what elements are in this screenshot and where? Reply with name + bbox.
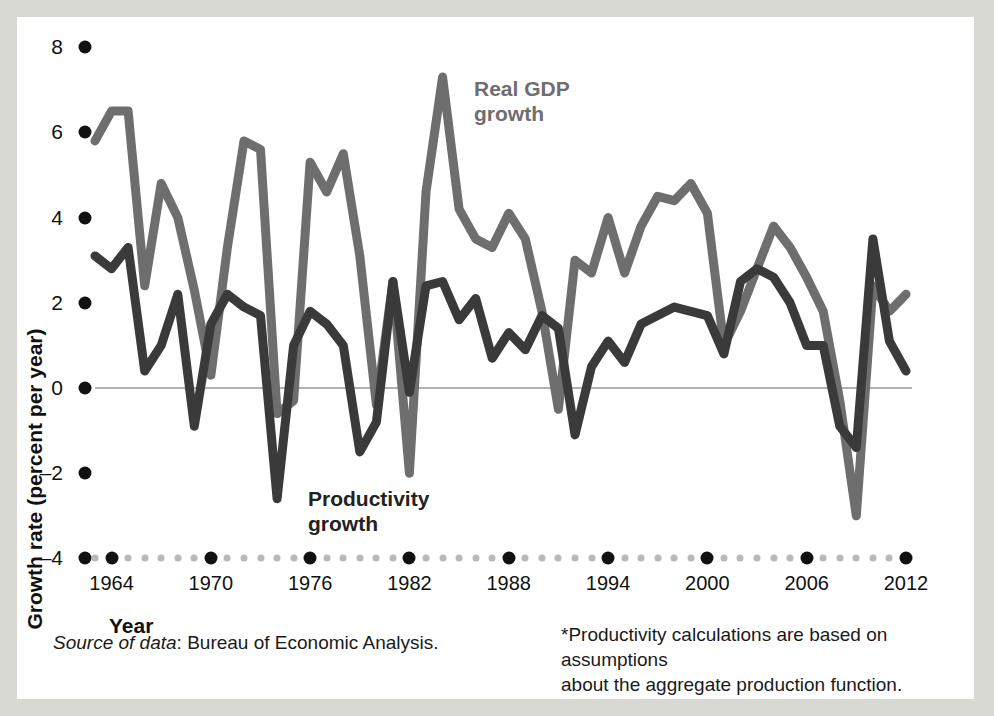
x-tick-dot-minor-icon (373, 555, 380, 562)
y-tick-label: –2 (40, 461, 63, 485)
x-tick-dot-minor-icon (191, 555, 198, 562)
x-tick-dot-minor-icon (836, 555, 843, 562)
annotation-productivity-growth-line1: Productivity (308, 487, 429, 512)
x-tick-dot-minor-icon (820, 555, 827, 562)
x-tick-dot-minor-icon (571, 555, 578, 562)
y-tick-label: –4 (40, 546, 63, 570)
x-tick-dot-minor-icon (274, 555, 281, 562)
x-tick-dot-major-icon (105, 552, 118, 565)
x-tick-dot-minor-icon (323, 555, 330, 562)
x-tick-dot-minor-icon (588, 555, 595, 562)
x-tick-dot-major-icon (204, 552, 217, 565)
y-tick-dot-icon (79, 552, 92, 565)
annotation-real-gdp-growth-line1: Real GDP (474, 77, 570, 102)
footnote-line2: about the aggregate production function. (561, 672, 974, 697)
x-tick-dot-minor-icon (687, 555, 694, 562)
x-tick-dot-minor-icon (869, 555, 876, 562)
x-tick-label: 2006 (784, 572, 829, 595)
x-tick-dot-minor-icon (754, 555, 761, 562)
annotation-real-gdp-growth-line2: growth (474, 102, 570, 127)
x-tick-dot-minor-icon (290, 555, 297, 562)
x-tick-dot-minor-icon (737, 555, 744, 562)
y-tick-dot-icon (79, 382, 92, 395)
x-tick-dot-minor-icon (853, 555, 860, 562)
x-tick-label: 1970 (189, 572, 234, 595)
y-tick-dot-icon (79, 126, 92, 139)
x-tick-dot-minor-icon (423, 555, 430, 562)
x-tick-dot-minor-icon (92, 555, 99, 562)
x-tick-dot-major-icon (899, 552, 912, 565)
y-tick-dot-icon (79, 41, 92, 54)
y-tick-dot-icon (79, 296, 92, 309)
x-tick-dot-minor-icon (638, 555, 645, 562)
x-tick-label: 1982 (387, 572, 432, 595)
y-tick-label: 2 (51, 291, 63, 315)
y-tick-dot-icon (79, 211, 92, 224)
annotation-productivity-growth-line2: growth (308, 512, 429, 537)
footnote: *Productivity calculations are based on … (561, 622, 974, 697)
x-tick-dot-minor-icon (538, 555, 545, 562)
x-tick-dot-minor-icon (456, 555, 463, 562)
annotation-productivity-growth: Productivity growth (308, 487, 429, 537)
x-tick-label: 1994 (586, 572, 631, 595)
y-tick-label: 6 (51, 120, 63, 144)
x-tick-dot-minor-icon (787, 555, 794, 562)
x-tick-dot-major-icon (701, 552, 714, 565)
source-note-rest: : Bureau of Economic Analysis. (177, 632, 439, 653)
x-tick-dot-minor-icon (158, 555, 165, 562)
series-line-productivity-growth (95, 239, 906, 499)
x-tick-dot-minor-icon (522, 555, 529, 562)
x-tick-dot-minor-icon (340, 555, 347, 562)
x-tick-dot-minor-icon (356, 555, 363, 562)
footnote-line1: *Productivity calculations are based on … (561, 622, 974, 672)
annotation-real-gdp-growth: Real GDP growth (474, 77, 570, 127)
x-tick-dot-major-icon (403, 552, 416, 565)
x-tick-dot-minor-icon (439, 555, 446, 562)
x-tick-dot-major-icon (602, 552, 615, 565)
x-tick-label: 2012 (884, 572, 929, 595)
x-tick-dot-minor-icon (555, 555, 562, 562)
y-tick-dot-icon (79, 467, 92, 480)
x-tick-label: 2000 (685, 572, 730, 595)
x-tick-dot-minor-icon (174, 555, 181, 562)
source-note-italic: Source of data (53, 632, 177, 653)
x-tick-label: 1964 (89, 572, 134, 595)
x-tick-dot-major-icon (800, 552, 813, 565)
source-note: Source of data: Bureau of Economic Analy… (53, 630, 439, 655)
y-tick-label: 0 (51, 376, 63, 400)
chart-figure: Growth rate (percent per year) 86420–2–4… (17, 17, 974, 699)
x-tick-dot-minor-icon (671, 555, 678, 562)
x-tick-label: 1988 (487, 572, 532, 595)
x-tick-dot-minor-icon (886, 555, 893, 562)
x-tick-dot-minor-icon (141, 555, 148, 562)
x-tick-label: 1976 (288, 572, 333, 595)
x-tick-dot-minor-icon (224, 555, 231, 562)
x-tick-dot-minor-icon (489, 555, 496, 562)
x-tick-dot-minor-icon (240, 555, 247, 562)
x-tick-dot-minor-icon (654, 555, 661, 562)
x-tick-dot-major-icon (502, 552, 515, 565)
x-tick-dot-major-icon (304, 552, 317, 565)
x-tick-dot-minor-icon (720, 555, 727, 562)
x-tick-dot-minor-icon (621, 555, 628, 562)
x-tick-dot-minor-icon (125, 555, 132, 562)
x-tick-dot-minor-icon (770, 555, 777, 562)
y-tick-label: 4 (51, 206, 63, 230)
x-tick-dot-minor-icon (389, 555, 396, 562)
x-tick-dot-minor-icon (257, 555, 264, 562)
x-tick-dot-minor-icon (472, 555, 479, 562)
y-tick-label: 8 (51, 35, 63, 59)
